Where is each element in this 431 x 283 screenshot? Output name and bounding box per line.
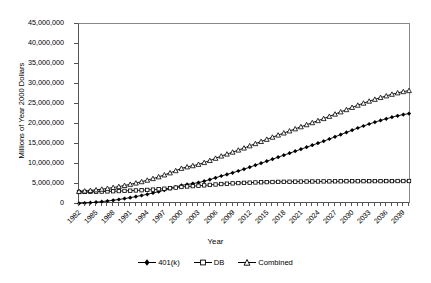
x-tick-mark — [215, 203, 216, 206]
x-tick-mark — [351, 203, 352, 206]
open-square-icon — [194, 258, 212, 267]
x-tick-mark — [169, 203, 170, 206]
data-point-marker — [378, 118, 382, 122]
data-point-marker — [248, 181, 251, 184]
data-point-marker — [219, 174, 223, 178]
data-point-marker — [202, 184, 205, 187]
data-point-marker — [362, 179, 365, 182]
x-tick-mark — [317, 203, 318, 206]
x-tick-mark — [289, 203, 290, 206]
x-tick-label: 2009 — [219, 208, 236, 225]
x-tick-mark — [374, 203, 375, 206]
plot-area — [78, 23, 410, 203]
x-tick-label: 2036 — [372, 208, 389, 225]
data-point-marker — [173, 168, 178, 172]
x-tick-label: 2039 — [389, 208, 406, 225]
y-tick-label: 35,000,000 — [28, 59, 64, 67]
x-tick-mark — [254, 203, 255, 206]
data-point-marker — [367, 122, 371, 126]
data-point-marker — [310, 143, 314, 147]
y-tick-label: 45,000,000 — [28, 19, 64, 27]
x-tick-mark — [141, 203, 142, 206]
x-tick-mark — [124, 203, 125, 206]
open-triangle-icon — [238, 258, 256, 267]
y-tick-label: 15,000,000 — [28, 139, 64, 147]
data-point-marker — [401, 113, 405, 117]
y-tick-label: 25,000,000 — [28, 99, 64, 107]
data-point-marker — [305, 180, 308, 183]
data-point-marker — [344, 130, 348, 134]
x-tick-label: 2024 — [304, 208, 321, 225]
data-point-marker — [282, 153, 286, 157]
x-tick-mark — [158, 203, 159, 206]
data-point-marker — [373, 179, 376, 182]
x-tick-mark — [237, 203, 238, 206]
legend-label-401k: 401(k) — [158, 258, 180, 267]
data-point-marker — [220, 182, 223, 185]
x-tick-mark — [129, 203, 130, 206]
x-tick-label: 2027 — [321, 208, 338, 225]
data-point-marker — [151, 188, 154, 191]
x-tick-mark — [397, 203, 398, 206]
x-tick-mark — [311, 203, 312, 206]
x-tick-label: 2021 — [287, 208, 304, 225]
data-point-marker — [259, 161, 263, 165]
x-tick-mark — [277, 203, 278, 206]
data-point-marker — [231, 182, 234, 185]
x-tick-mark — [300, 203, 301, 206]
data-point-marker — [134, 189, 137, 192]
x-tick-mark — [180, 203, 181, 206]
legend-item-db: DB — [194, 258, 225, 267]
x-tick-label: 1985 — [82, 208, 99, 225]
data-point-marker — [111, 190, 114, 193]
x-tick-label: 1994 — [133, 208, 150, 225]
x-tick-label: 2012 — [236, 208, 253, 225]
data-point-marker — [163, 187, 166, 190]
x-tick-mark — [197, 203, 198, 206]
x-tick-mark — [112, 203, 113, 206]
data-point-marker — [322, 180, 325, 183]
x-tick-mark — [249, 203, 250, 206]
data-point-marker — [259, 181, 262, 184]
data-point-marker — [140, 189, 143, 192]
data-point-marker — [214, 183, 217, 186]
data-point-marker — [248, 165, 252, 169]
x-tick-mark — [175, 203, 176, 206]
data-point-marker — [293, 149, 297, 153]
data-point-marker — [225, 182, 228, 185]
data-point-marker — [253, 163, 257, 167]
data-point-marker — [174, 186, 177, 189]
data-point-marker — [327, 137, 331, 141]
data-point-marker — [128, 196, 132, 200]
data-point-marker — [271, 180, 274, 183]
data-point-marker — [407, 112, 411, 116]
data-point-marker — [180, 185, 183, 188]
x-tick-label: 2015 — [253, 208, 270, 225]
x-tick-mark — [323, 203, 324, 206]
data-point-marker — [111, 198, 115, 202]
data-point-marker — [236, 169, 240, 173]
data-point-marker — [328, 180, 331, 183]
data-point-marker — [242, 181, 245, 184]
data-point-marker — [139, 193, 143, 197]
data-point-marker — [146, 188, 149, 191]
y-tick-label: 10,000,000 — [28, 159, 64, 167]
y-tick-label: 40,000,000 — [28, 39, 64, 47]
x-tick-mark — [220, 203, 221, 206]
legend-label-combined: Combined — [258, 258, 293, 267]
x-tick-mark — [328, 203, 329, 206]
data-point-marker — [288, 180, 291, 183]
x-tick-mark — [146, 203, 147, 206]
data-point-marker — [117, 189, 120, 192]
data-point-marker — [213, 176, 217, 180]
data-point-marker — [242, 167, 246, 171]
x-tick-label: 2033 — [355, 208, 372, 225]
data-point-marker — [122, 197, 126, 201]
chart-legend: 401(k) DB Combined — [0, 258, 431, 267]
data-point-marker — [231, 171, 235, 175]
x-tick-label: 2006 — [202, 208, 219, 225]
data-point-marker — [254, 181, 257, 184]
x-axis-title: Year — [0, 237, 431, 246]
data-point-marker — [304, 145, 308, 149]
x-tick-mark — [232, 203, 233, 206]
